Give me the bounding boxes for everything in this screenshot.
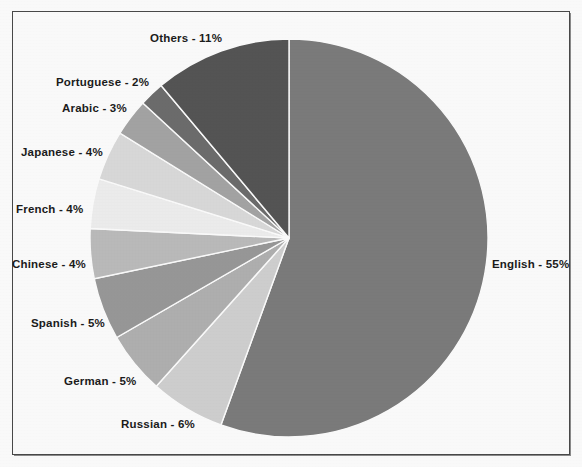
pie-label-spanish: Spanish - 5% bbox=[31, 317, 105, 330]
pie-label-english: English - 55% bbox=[492, 258, 569, 271]
pie-label-russian: Russian - 6% bbox=[121, 418, 195, 431]
pie-label-portuguese: Portuguese - 2% bbox=[56, 76, 149, 89]
pie-slices-group bbox=[90, 39, 488, 437]
pie-label-others: Others - 11% bbox=[150, 32, 222, 45]
pie-label-chinese: Chinese - 4% bbox=[12, 258, 86, 271]
pie-chart-screenshot: English - 55%Russian - 6%German - 5%Span… bbox=[0, 0, 582, 467]
pie-chart-area: English - 55%Russian - 6%German - 5%Span… bbox=[0, 0, 582, 467]
pie-label-japanese: Japanese - 4% bbox=[21, 146, 103, 159]
pie-label-arabic: Arabic - 3% bbox=[62, 102, 127, 115]
pie-chart-svg bbox=[0, 0, 582, 467]
pie-label-french: French - 4% bbox=[16, 203, 83, 216]
pie-label-german: German - 5% bbox=[64, 375, 137, 388]
